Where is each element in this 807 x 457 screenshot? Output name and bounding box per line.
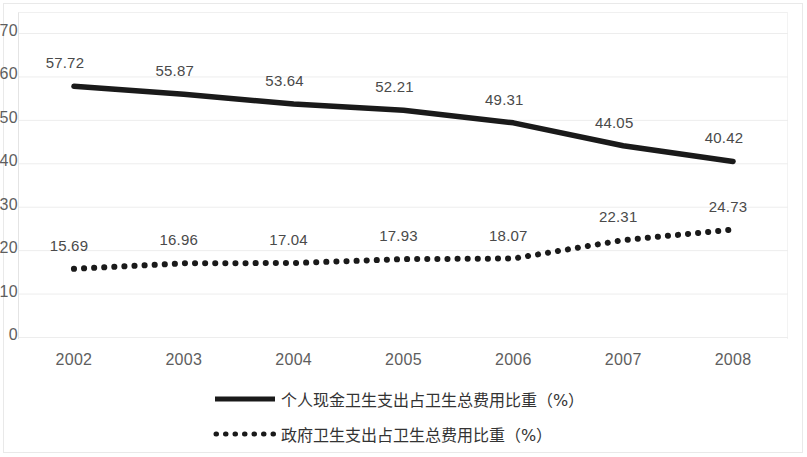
- x-axis-tick-label: 2004: [259, 351, 329, 369]
- legend-label-personal-cash-health-expenditure: 个人现金卫生支出占卫生总费用比重（%）: [281, 387, 584, 411]
- data-label: 53.64: [250, 72, 320, 89]
- data-label: 40.42: [689, 129, 759, 146]
- x-axis-tick-label: 2005: [369, 351, 439, 369]
- data-label: 15.69: [34, 237, 104, 254]
- data-label: 18.07: [473, 227, 543, 244]
- data-label: 17.04: [254, 231, 324, 248]
- y-axis-tick-label: 50: [0, 109, 18, 127]
- y-axis-tick-label: 70: [0, 22, 18, 40]
- y-axis-tick-label: 40: [0, 152, 18, 170]
- legend-item-personal-cash-health-expenditure[interactable]: 个人现金卫生支出占卫生总费用比重（%）: [213, 388, 584, 410]
- solid-line-marker: [213, 392, 277, 406]
- x-axis-tick-label: 2002: [39, 351, 109, 369]
- y-axis-tick-label: 60: [0, 65, 18, 83]
- dotted-line-marker: [213, 427, 277, 441]
- x-axis-tick-label: 2008: [698, 351, 768, 369]
- data-label: 24.73: [693, 198, 763, 215]
- data-label: 55.87: [140, 62, 210, 79]
- y-axis-tick-label: 20: [0, 239, 18, 257]
- y-axis-tick-label: 30: [0, 196, 18, 214]
- data-label: 44.05: [579, 114, 649, 131]
- legend-item-government-health-expenditure[interactable]: 政府卫生支出占卫生总费用比重（%）: [213, 423, 552, 445]
- data-label: 22.31: [583, 208, 653, 225]
- data-label: 17.93: [364, 227, 434, 244]
- line-chart: 706050403020100 200220032004200520062007…: [0, 0, 807, 457]
- data-label: 57.72: [30, 54, 100, 71]
- y-axis-tick-label: 10: [0, 283, 18, 301]
- y-axis-tick-label: 0: [0, 326, 18, 344]
- data-label: 16.96: [144, 231, 214, 248]
- x-axis-tick-label: 2006: [478, 351, 548, 369]
- legend-label-government-health-expenditure: 政府卫生支出占卫生总费用比重（%）: [281, 422, 552, 446]
- data-label: 49.31: [469, 91, 539, 108]
- x-axis-tick-label: 2003: [149, 351, 219, 369]
- x-axis-tick-label: 2007: [588, 351, 658, 369]
- data-label: 52.21: [360, 78, 430, 95]
